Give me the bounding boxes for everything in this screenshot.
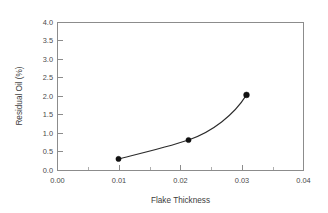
x-axis-ticks bbox=[58, 165, 304, 170]
y-tick-label: 3.0 bbox=[43, 55, 53, 64]
x-tick-label: 0.03 bbox=[235, 176, 249, 185]
data-point bbox=[244, 92, 250, 98]
plot-frame bbox=[58, 23, 304, 171]
y-tick-label: 0.5 bbox=[43, 147, 53, 156]
y-tick-label: 2.5 bbox=[43, 73, 53, 82]
chart-canvas: 0.0 0.5 1.0 1.5 2.0 2.5 3.0 3.5 4.0 0.00… bbox=[0, 0, 328, 213]
data-curve bbox=[119, 95, 247, 159]
y-tick-label: 1.5 bbox=[43, 110, 53, 119]
x-tick-label: 0.00 bbox=[50, 176, 64, 185]
y-tick-label: 4.0 bbox=[43, 18, 53, 27]
data-markers bbox=[116, 92, 250, 161]
x-tick-label: 0.04 bbox=[296, 176, 310, 185]
y-axis-title: Residual Oil (%) bbox=[15, 66, 24, 125]
x-tick-label: 0.02 bbox=[173, 176, 187, 185]
y-tick-label: 3.5 bbox=[43, 36, 53, 45]
data-point bbox=[186, 137, 191, 142]
y-tick-label: 1.0 bbox=[43, 129, 53, 138]
y-tick-labels: 0.0 0.5 1.0 1.5 2.0 2.5 3.0 3.5 4.0 bbox=[43, 18, 53, 175]
x-tick-label: 0.01 bbox=[112, 176, 126, 185]
data-point bbox=[116, 156, 121, 161]
y-axis-ticks bbox=[58, 23, 63, 171]
x-axis-title: Flake Thickness bbox=[151, 196, 210, 205]
x-tick-labels: 0.00 0.01 0.02 0.03 0.04 bbox=[50, 176, 310, 185]
y-tick-label: 0.0 bbox=[43, 166, 53, 175]
chart-figure: 0.0 0.5 1.0 1.5 2.0 2.5 3.0 3.5 4.0 0.00… bbox=[0, 0, 328, 213]
y-tick-label: 2.0 bbox=[43, 92, 53, 101]
